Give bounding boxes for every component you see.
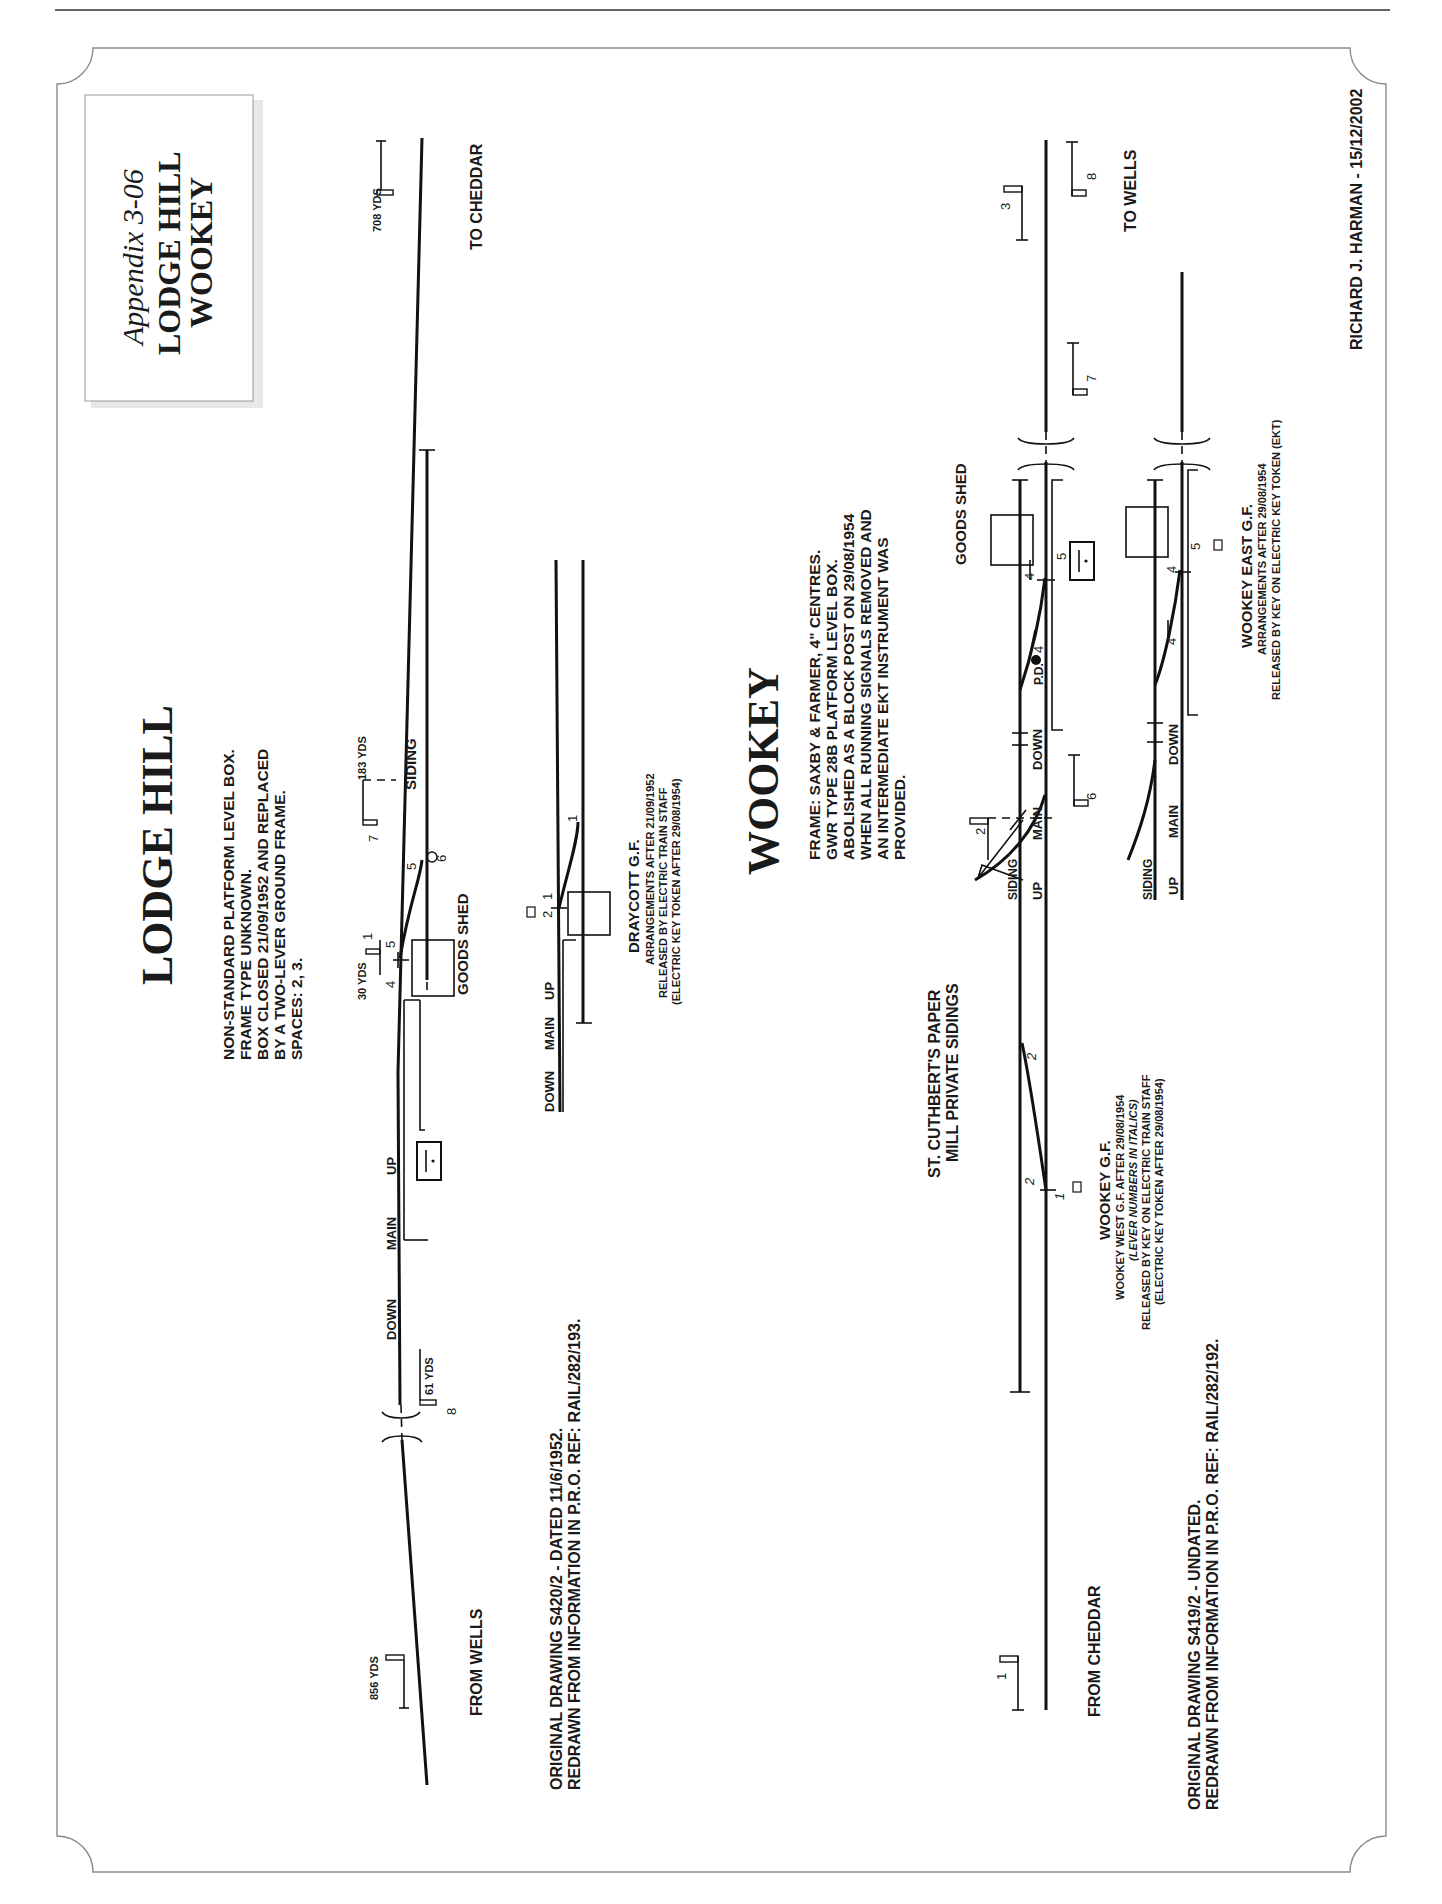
siding-label: SIDING <box>1006 859 1020 900</box>
draycott-gf-section: 1 2 1 UP MAIN DOWN DRAYCOTT G.F. ARRANGE… <box>527 560 682 1112</box>
draycott-platform <box>563 940 576 1112</box>
ground-frame-icon <box>527 907 535 917</box>
goods-shed <box>568 892 610 935</box>
wookey-notes: FRAME: SAXBY & FARMER, 4" CENTRES. GWR T… <box>806 509 908 860</box>
wookey-note: PROVIDED. <box>891 775 908 860</box>
appendix-label: Appendix 3-06 <box>116 169 149 347</box>
ground-frame-icon <box>1073 1182 1081 1192</box>
main-label: MAIN <box>1166 805 1181 838</box>
lodge-hill-heading: LODGE HILL <box>133 705 182 985</box>
lever-number: 4 <box>1164 638 1179 645</box>
lodge-hill-source-line: ORIGINAL DRAWING S420/2 - DATED 11/6/195… <box>548 1428 565 1790</box>
private-sidings-label: MILL PRIVATE SIDINGS <box>944 983 961 1162</box>
lever-number: 1 <box>994 1673 1009 1680</box>
wookey-source-line: ORIGINAL DRAWING S419/2 - UNDATED. <box>1186 1499 1203 1810</box>
lever-number: 1 <box>360 933 375 940</box>
lever-number: 4 <box>1022 573 1037 580</box>
draycott-note: (ELECTRIC KEY TOKEN AFTER 29/08/1954) <box>670 778 682 1005</box>
draycott-direction-labels: UP MAIN DOWN <box>542 982 557 1112</box>
wookey-note: AN INTERMEDIATE EKT INSTRUMENT WAS <box>874 537 891 860</box>
wookey-platform <box>1052 480 1063 730</box>
wookey-east-gf-note: ARRANGEMENTS AFTER 29/08/1954 <box>1256 463 1268 655</box>
pd-label: P.D. <box>1032 663 1046 685</box>
signal-7: 7 183 YDS <box>356 736 396 842</box>
wookey-gf-note: RELEASED BY KEY ON ELECTRIC TRAIN STAFF <box>1140 1074 1152 1330</box>
goods-shed <box>991 515 1033 565</box>
lodge-hill-direction-labels: UP MAIN DOWN <box>384 1157 399 1340</box>
signalling-diagram: Appendix 3-06 LODGE HILL WOOKEY LODGE HI… <box>0 0 1442 1904</box>
east-gf-direction-labels: DOWN MAIN UP <box>1166 724 1181 895</box>
down-label: DOWN <box>1166 724 1181 765</box>
ground-frame-icon <box>1214 540 1222 550</box>
signal-8: 8 <box>1066 142 1099 196</box>
up-label: UP <box>1030 882 1045 900</box>
main-label: MAIN <box>384 1217 399 1250</box>
wookey-section: WOOKEY FRAME: SAXBY & FARMER, 4" CENTRES… <box>739 140 1221 1810</box>
siding-label: SIDING <box>1141 859 1155 900</box>
signal-box-dot <box>431 1159 434 1162</box>
title-line-2: WOOKEY <box>183 177 219 328</box>
wookey-east-gf-section: 4 4 5 DOWN MAIN UP SIDING WOOKEY EAST G.… <box>1126 272 1282 900</box>
lever-number: 4 <box>1164 566 1179 573</box>
signal-7: 7 <box>1067 343 1099 395</box>
author-credit: RICHARD J. HARMAN - 15/12/2002 <box>1348 88 1365 350</box>
to-cheddar-label: TO CHEDDAR <box>468 143 485 250</box>
wookey-source-line: REDRAWN FROM INFORMATION IN P.R.O. REF: … <box>1204 1339 1221 1810</box>
east-gf-siding-curve <box>1128 760 1155 860</box>
up-label: UP <box>1166 877 1181 895</box>
lever-number: 5 <box>404 863 419 870</box>
from-cheddar-label: FROM CHEDDAR <box>1086 1585 1103 1717</box>
wookey-note: ABOLISHED AS A BLOCK POST ON 29/08/1954 <box>840 513 857 860</box>
lodge-hill-note: BOX CLOSED 21/09/1952 AND REPLACED <box>254 749 271 1060</box>
main-label: MAIN <box>1030 807 1045 840</box>
main-label: MAIN <box>542 1017 557 1050</box>
wookey-gf-note: WOOKEY WEST G.F. AFTER 29/08/1954 <box>1114 1094 1126 1300</box>
signal-856: 856 YDS <box>368 1655 409 1708</box>
signal-box-icon <box>417 1142 441 1180</box>
wookey-east-gf-title: WOOKEY EAST G.F. <box>1238 504 1255 648</box>
distance-label: 61 YDS <box>423 1357 435 1395</box>
wookey-note: GWR TYPE 28B PLATFORM LEVEL BOX. <box>823 559 840 860</box>
title-line-1: LODGE HILL <box>151 151 187 355</box>
lever-number: 6 <box>1084 793 1099 800</box>
signal-box-dot <box>1084 559 1087 562</box>
goods-shed <box>412 940 454 996</box>
distance-label: 708 YDS <box>371 188 383 232</box>
lodge-hill-note: FRAME TYPE UNKNOWN. <box>237 869 254 1060</box>
lodge-hill-source-line: REDRAWN FROM INFORMATION IN P.R.O. REF: … <box>566 1319 583 1790</box>
signal-1: 1 30 YDS <box>356 933 380 1000</box>
goods-shed-label: GOODS SHED <box>454 893 471 995</box>
wookey-gf-title: WOOKEY G.F. <box>1096 1140 1113 1240</box>
distance-label: 856 YDS <box>368 1656 380 1700</box>
draycott-title: DRAYCOTT G.F. <box>625 839 642 953</box>
lever-number: 1 <box>1052 1193 1067 1200</box>
wookey-heading: WOOKEY <box>739 667 788 875</box>
down-label: DOWN <box>384 1299 399 1340</box>
lever-number: 7 <box>366 835 381 842</box>
down-label: DOWN <box>1030 729 1045 770</box>
lever-number: 4 <box>1031 646 1046 653</box>
lever-number: 2 <box>1024 1052 1039 1061</box>
from-wells-label: FROM WELLS <box>468 1608 485 1716</box>
goods-shed <box>1126 507 1168 557</box>
wookey-east-gf-note: RELEASED BY KEY ON ELECTRIC KEY TOKEN (E… <box>1270 419 1282 700</box>
wookey-note: WHEN ALL RUNNING SIGNALS REMOVED AND <box>857 509 874 860</box>
signal-8: 61 YDS 8 <box>420 1349 459 1415</box>
lever-number: 3 <box>998 203 1013 210</box>
point-detector-icon <box>1031 655 1041 665</box>
draycott-note: ARRANGEMENTS AFTER 21/09/1952 <box>644 773 656 965</box>
lodge-hill-platform <box>404 1000 425 1130</box>
up-label: UP <box>384 1157 399 1175</box>
lever-number: 8 <box>1084 173 1099 180</box>
signal-3: 3 <box>998 186 1028 240</box>
private-sidings-label: ST. CUTHBERT'S PAPER <box>926 989 943 1178</box>
lever-number: 8 <box>444 1408 459 1415</box>
wookey-direction-labels: DOWN MAIN UP <box>1030 729 1045 900</box>
lever-number: 1 <box>540 893 555 900</box>
signal-708: 708 YDS <box>371 141 393 232</box>
goods-shed-label: GOODS SHED <box>952 463 969 565</box>
draycott-note: RELEASED BY ELECTRIC TRAIN STAFF <box>657 787 669 998</box>
ground-signal-6: 6 <box>427 852 449 862</box>
signal-1: 1 <box>994 1656 1024 1710</box>
lodge-hill-notes: NON-STANDARD PLATFORM LEVEL BOX. FRAME T… <box>220 749 305 1060</box>
